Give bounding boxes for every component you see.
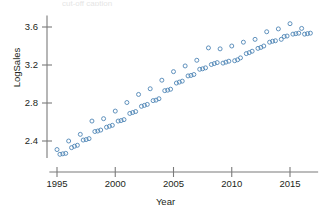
data-point <box>206 46 210 50</box>
data-point <box>276 27 280 31</box>
data-point <box>195 58 199 62</box>
y-tick-label-2.8: 2.8 <box>4 98 38 108</box>
x-axis-title: Year <box>0 196 331 207</box>
data-point <box>288 22 292 26</box>
data-point <box>172 70 176 74</box>
data-points-group <box>55 22 312 157</box>
data-point <box>183 64 187 68</box>
y-tick-label-2.4: 2.4 <box>4 136 38 146</box>
data-point <box>137 92 141 96</box>
y-axis-title: LogSales <box>11 38 22 98</box>
data-point <box>78 132 82 136</box>
data-point <box>160 78 164 82</box>
x-tick-label-2015: 2015 <box>270 179 310 189</box>
x-tick-label-2000: 2000 <box>95 179 135 189</box>
data-point <box>265 30 269 34</box>
data-point <box>55 148 59 152</box>
data-point <box>300 26 304 30</box>
data-point <box>218 47 222 51</box>
figure-scatter-logsales-year: cut-off caption 2.42.83.23.6199520002005… <box>0 0 331 216</box>
data-point <box>102 117 106 121</box>
data-point <box>90 119 94 123</box>
x-tick-label-2005: 2005 <box>154 179 194 189</box>
data-point <box>113 109 117 113</box>
y-tick-label-3.6: 3.6 <box>4 22 38 32</box>
data-point <box>230 44 234 48</box>
data-point <box>67 139 71 143</box>
x-tick-label-1995: 1995 <box>37 179 77 189</box>
data-point <box>148 87 152 91</box>
x-tick-label-2010: 2010 <box>212 179 252 189</box>
data-point <box>253 37 257 41</box>
data-point <box>241 40 245 44</box>
data-point <box>125 101 129 105</box>
